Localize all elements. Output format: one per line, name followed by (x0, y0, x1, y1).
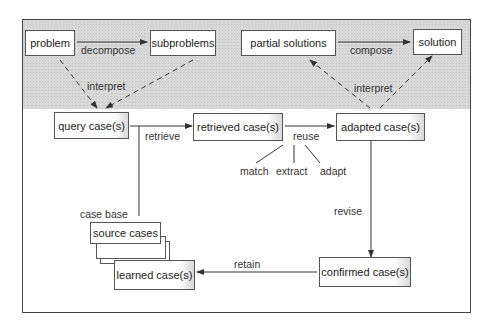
compose-label: compose (350, 44, 393, 56)
partial-solutions-box: partial solutions (241, 30, 336, 56)
query-cases-label: query case(s) (58, 120, 125, 132)
confirmed-cases-label: confirmed case(s) (321, 266, 408, 278)
revise-label: revise (334, 205, 362, 217)
retrieved-cases-box: retrieved case(s) (193, 113, 283, 141)
retrieved-cases-label: retrieved case(s) (197, 121, 279, 133)
solution-box: solution (413, 29, 462, 55)
problem-box: problem (25, 30, 75, 56)
adapt-label: adapt (320, 165, 346, 177)
learned-cases-box: learned case(s) (114, 260, 195, 290)
decompose-label: decompose (81, 44, 135, 56)
source-cases-box: source cases (90, 222, 161, 244)
solution-label: solution (419, 36, 457, 48)
problem-label: problem (30, 37, 70, 49)
retrieve-label: retrieve (145, 130, 180, 142)
query-cases-box: query case(s) (54, 112, 129, 139)
match-label: match (240, 165, 269, 177)
interpret-left-label: interpret (87, 80, 126, 92)
case-base-label: case base (80, 208, 128, 220)
subproblems-label: subproblems (152, 37, 215, 49)
source-cases-label: source cases (93, 227, 158, 239)
partial-solutions-label: partial solutions (250, 37, 326, 49)
retain-label: retain (234, 258, 260, 270)
subproblems-box: subproblems (150, 30, 216, 56)
interpret-right-label: interpret (354, 82, 393, 94)
learned-cases-label: learned case(s) (117, 269, 193, 281)
adapted-cases-box: adapted case(s) (336, 113, 425, 141)
confirmed-cases-box: confirmed case(s) (319, 257, 411, 287)
extract-label: extract (276, 165, 308, 177)
adapted-cases-label: adapted case(s) (341, 121, 420, 133)
reuse-label: reuse (293, 130, 319, 142)
